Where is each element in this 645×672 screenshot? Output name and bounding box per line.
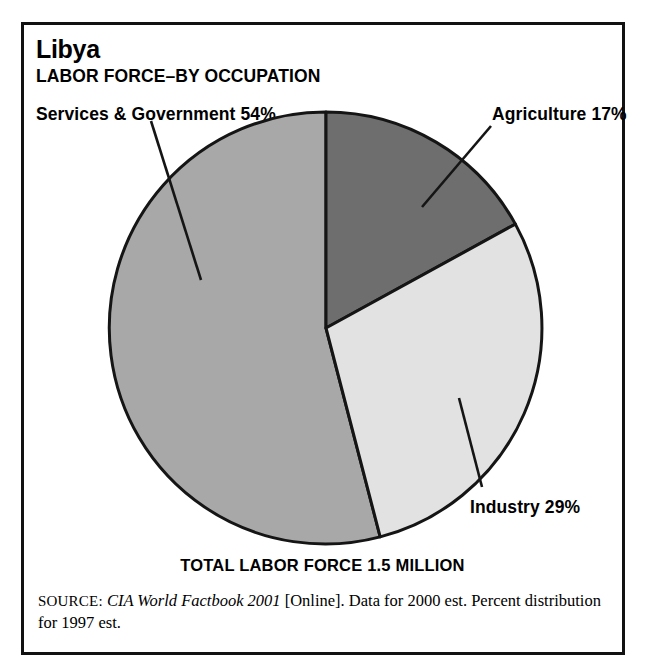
source-label: SOURCE: [38, 593, 103, 609]
source-title: CIA World Factbook 2001 [107, 591, 281, 610]
source-note: SOURCE: CIA World Factbook 2001 [Online]… [38, 590, 604, 633]
pie-chart-figure: Libya LABOR FORCE–BY OCCUPATION Services… [0, 0, 645, 672]
total-labor-force-caption: TOTAL LABOR FORCE 1.5 MILLION [0, 556, 645, 575]
